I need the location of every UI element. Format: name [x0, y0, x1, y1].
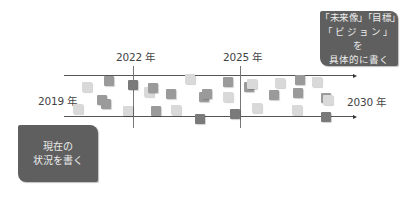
task-square	[128, 80, 138, 90]
arrow-right-icon	[353, 115, 357, 119]
task-square	[223, 77, 233, 87]
current-status-callout: 現在の 状況を書く	[18, 125, 98, 182]
callout-line: 状況を書く	[33, 154, 83, 168]
task-square	[223, 92, 233, 102]
arrow-right-icon	[353, 74, 357, 78]
task-square	[195, 114, 205, 124]
task-square	[321, 112, 331, 122]
task-square	[166, 89, 176, 99]
task-square	[104, 76, 114, 86]
task-square	[101, 99, 111, 109]
task-square	[230, 109, 240, 119]
year-label-start: 2019 年	[38, 93, 77, 108]
year-label-2025: 2025 年	[223, 49, 262, 64]
task-square	[247, 79, 257, 89]
marker-line-2022	[133, 66, 134, 128]
task-square	[252, 103, 262, 113]
callout-line: 具体的に書く	[329, 53, 389, 67]
task-square	[293, 88, 303, 98]
task-square	[292, 105, 302, 115]
marker-line-2025	[240, 66, 241, 128]
callout-line: 「ビジョン」を	[320, 25, 398, 53]
task-square	[123, 106, 133, 116]
task-square	[202, 89, 212, 99]
task-square	[171, 105, 181, 115]
future-vision-callout: 「未来像」「目標」 「ビジョン」を 具体的に書く	[320, 11, 398, 66]
year-label-2022: 2022 年	[116, 49, 155, 64]
task-square	[82, 82, 92, 92]
task-square	[269, 90, 279, 100]
year-label-end: 2030 年	[347, 94, 386, 109]
task-square	[148, 83, 158, 93]
task-square	[312, 77, 322, 87]
callout-line: 現在の	[43, 140, 73, 154]
callout-line: 「未来像」「目標」	[320, 11, 398, 25]
task-square	[275, 78, 285, 88]
timeline-bottom-line	[64, 116, 354, 117]
task-square	[151, 106, 161, 116]
task-square	[323, 95, 333, 105]
task-square	[185, 74, 195, 84]
task-square	[295, 75, 305, 85]
task-square	[73, 104, 83, 114]
